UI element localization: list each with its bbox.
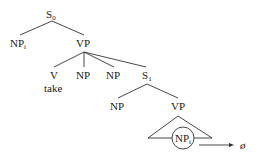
edge-vp-v <box>54 52 84 67</box>
arrow-head-icon <box>229 143 234 147</box>
node-vp-main: VP <box>76 37 90 49</box>
word-take: take <box>44 82 62 94</box>
node-np-subject: NPi <box>10 37 26 51</box>
node-v: V <box>50 69 58 81</box>
edge-vp-s1 <box>84 52 146 67</box>
empty-symbol: ø <box>239 139 246 151</box>
node-s0: S0 <box>46 8 56 22</box>
node-np-obj1: NP <box>76 69 90 81</box>
node-np-embedded: NP <box>110 100 124 112</box>
edge-s0-np <box>20 21 52 35</box>
edge-s1-vp <box>147 84 178 98</box>
node-np-obj2: NP <box>106 69 120 81</box>
edge-s0-vp <box>52 21 84 35</box>
node-s-embedded: S1 <box>142 69 152 83</box>
node-np-gap: NPi <box>175 132 191 146</box>
edge-s1-np <box>118 84 147 98</box>
edge-vp-np2 <box>84 52 114 67</box>
node-vp-embedded: VP <box>171 100 185 112</box>
syntax-tree-diagram: S0 NPi VP V take NP NP S1 NP VP NPi ø <box>0 0 259 160</box>
